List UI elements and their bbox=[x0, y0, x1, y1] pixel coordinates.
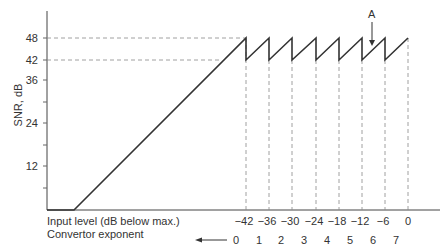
y-ticks bbox=[43, 38, 47, 188]
y-tick-42: 42 bbox=[14, 54, 38, 66]
x-axis-label: Input level (dB below max.) bbox=[47, 215, 180, 227]
reference-lines bbox=[47, 38, 408, 210]
annotation-a: A bbox=[368, 8, 375, 20]
y-tick-12: 12 bbox=[14, 160, 38, 172]
x-tick: −6 bbox=[370, 215, 396, 227]
exponent-tick: 7 bbox=[383, 234, 409, 246]
arrow-head-icon bbox=[369, 40, 375, 46]
exponent-label: Convertor exponent bbox=[47, 228, 144, 240]
y-tick-48: 48 bbox=[14, 32, 38, 44]
y-tick-36: 36 bbox=[14, 74, 38, 86]
snr-curve bbox=[47, 38, 408, 210]
x-tick: 0 bbox=[395, 215, 421, 227]
y-tick-24: 24 bbox=[14, 117, 38, 129]
x-tick: −30 bbox=[277, 215, 303, 227]
arrow-left-icon bbox=[195, 238, 202, 243]
